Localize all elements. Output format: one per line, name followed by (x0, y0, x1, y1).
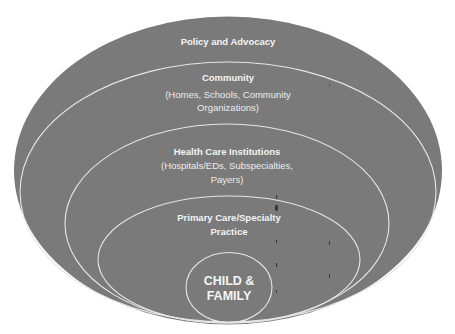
community-subtitle-line-2: Organizations) (197, 102, 259, 113)
child-family-label-line-1: CHILD & (204, 274, 255, 288)
primary-care-label-line-1: Primary Care/Specialty (177, 212, 281, 223)
health-care-subtitle-line-1: (Hospitals/EDs, Subspecialties, (161, 160, 293, 171)
primary-care-label-line-2: Practice (211, 226, 248, 237)
community-label: Community (202, 72, 255, 83)
child-family-label-line-2: FAMILY (207, 289, 252, 303)
health-care-subtitle-line-2: Payers) (211, 174, 244, 185)
community-subtitle-line-1: (Homes, Schools, Community (165, 89, 291, 100)
policy-advocacy-label: Policy and Advocacy (181, 36, 276, 47)
ecological-model-diagram: Policy and Advocacy Community (Homes, Sc… (0, 0, 455, 334)
health-care-institutions-label: Health Care Institutions (174, 146, 281, 157)
